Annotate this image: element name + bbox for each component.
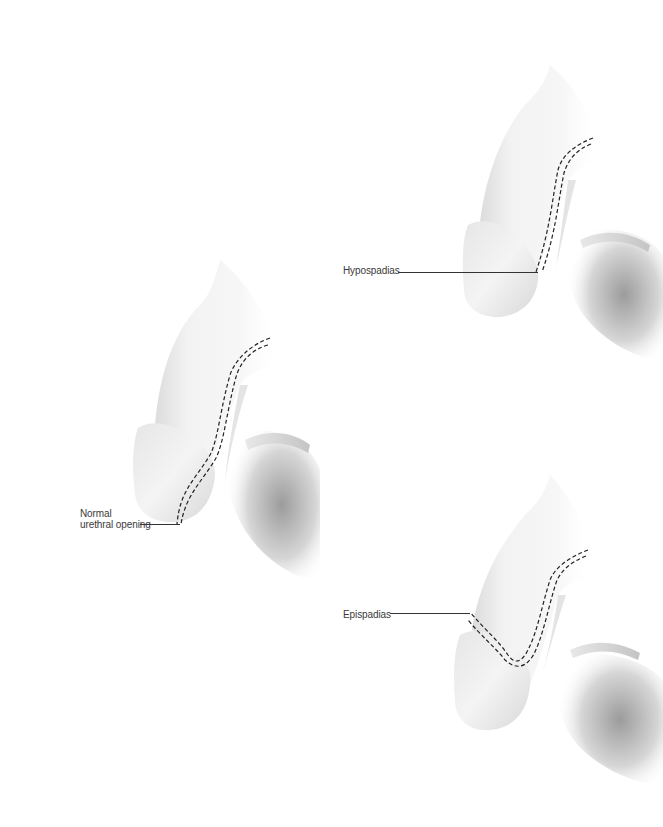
normal-urethral-opening-label: Normal urethral opening <box>80 508 151 530</box>
hypospadias-label: Hypospadias <box>343 265 400 276</box>
normal-leader-line <box>140 524 180 525</box>
epispadias-leader-line <box>390 613 470 614</box>
hypospadias-figure <box>450 40 663 380</box>
epispadias-figure <box>450 470 663 810</box>
epispadias-label: Epispadias <box>343 609 391 620</box>
normal-anatomy-figure <box>120 250 320 590</box>
label-line-1: Normal <box>80 508 151 519</box>
hypospadias-leader-line <box>398 272 538 273</box>
